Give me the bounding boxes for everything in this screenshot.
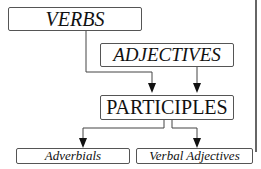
node-adverbials: Adverbials [16, 148, 130, 164]
node-verbs: VERBS [8, 7, 142, 31]
arrow-down-icon [148, 83, 156, 93]
node-verbal-adjectives: Verbal Adjectives [136, 148, 253, 164]
node-participles: PARTICIPLES [100, 95, 234, 120]
node-adjectives: ADJECTIVES [100, 43, 234, 67]
arrow-down-icon [79, 138, 87, 148]
diagram-canvas: VERBS ADJECTIVES PARTICIPLES Adverbials … [0, 0, 261, 169]
arrow-down-icon [193, 138, 201, 148]
arrow-down-icon [193, 83, 201, 93]
